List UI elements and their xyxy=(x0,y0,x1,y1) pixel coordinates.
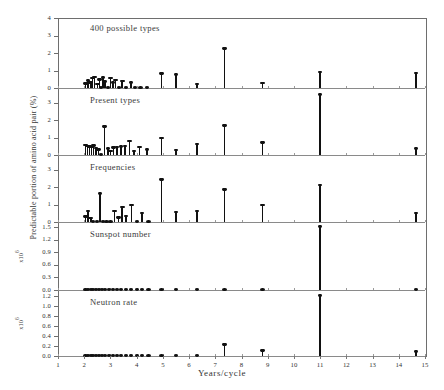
data-point-head xyxy=(222,124,227,127)
y-tick-label-2-2: 2 xyxy=(22,184,51,191)
y-tick-label-0-0: 0 xyxy=(22,85,51,92)
x-tick-inner-2-13 xyxy=(373,220,374,223)
panel-present-types-title: Present types xyxy=(90,95,140,105)
data-stem xyxy=(110,152,112,156)
y-tick-label-4-1: 0.2 xyxy=(22,343,51,350)
data-point-head xyxy=(159,72,164,75)
data-point-dot xyxy=(99,153,103,156)
x-tick-14 xyxy=(399,356,400,359)
x-tick-inner-2-15 xyxy=(425,220,426,223)
data-point-dot xyxy=(146,354,150,357)
data-point-head xyxy=(140,212,145,215)
data-point-dot xyxy=(140,354,144,357)
x-tick-inner-0-6 xyxy=(189,86,190,89)
data-point-dot xyxy=(140,288,144,291)
data-point-head xyxy=(222,47,227,50)
x-tick-inner-3-8 xyxy=(242,288,243,291)
y-tick-2-3 xyxy=(54,170,58,171)
data-point-dot xyxy=(119,354,123,357)
x-tick-inner-3-7 xyxy=(215,288,216,291)
data-stem xyxy=(124,146,126,155)
data-point-dot xyxy=(145,86,149,89)
x-tick-inner-3-15 xyxy=(425,288,426,291)
data-point-dot xyxy=(117,86,121,89)
x-tick-inner-0-10 xyxy=(294,86,295,89)
data-stem xyxy=(319,185,321,222)
data-stem xyxy=(161,138,163,155)
y-exponent-label-3: x106 xyxy=(14,234,23,280)
data-point-dot xyxy=(138,86,142,89)
x-tick-15 xyxy=(425,356,426,359)
x-tick-inner-1-4 xyxy=(137,153,138,156)
data-point-dot xyxy=(135,220,139,223)
y-tick-label-4-6: 1.2 xyxy=(22,293,51,300)
x-tick-1 xyxy=(58,356,59,359)
y-tick-4-3 xyxy=(54,326,58,327)
data-point-dot xyxy=(414,288,418,291)
data-point-head xyxy=(145,148,150,151)
data-point-head xyxy=(113,79,118,82)
y-tick-0-4 xyxy=(54,18,58,19)
data-stem xyxy=(139,147,141,155)
y-tick-3-1 xyxy=(54,277,58,278)
data-stem xyxy=(161,180,163,222)
data-stem xyxy=(415,213,417,222)
data-stem xyxy=(114,212,116,223)
data-stem xyxy=(196,212,198,223)
x-tick-label-1: 1 xyxy=(47,361,69,368)
data-point-head xyxy=(260,204,265,207)
data-point-head xyxy=(260,82,265,85)
data-point-head xyxy=(102,125,107,128)
x-tick-13 xyxy=(373,356,374,359)
x-tick-9 xyxy=(268,356,269,359)
data-point-head xyxy=(137,146,142,149)
y-tick-3-5 xyxy=(54,227,58,228)
x-tick-inner-1-5 xyxy=(163,153,164,156)
x-tick-11 xyxy=(320,356,321,359)
data-point-dot xyxy=(133,86,137,89)
x-tick-inner-3-10 xyxy=(294,288,295,291)
y-tick-label-3-2: 0.6 xyxy=(22,261,51,268)
y-tick-label-4-2: 0.4 xyxy=(22,333,51,340)
y-tick-label-0-4: 4 xyxy=(22,15,51,22)
x-tick-label-2: 2 xyxy=(73,361,95,368)
x-tick-inner-3-1 xyxy=(58,288,59,291)
data-point-dot xyxy=(124,354,128,357)
x-tick-inner-3-6 xyxy=(189,288,190,291)
data-stem xyxy=(224,49,226,88)
data-point-head xyxy=(174,149,179,152)
y-tick-label-1-0: 0 xyxy=(22,152,51,159)
x-tick-inner-3-12 xyxy=(346,288,347,291)
x-tick-inner-3-9 xyxy=(268,288,269,291)
x-tick-label-10: 10 xyxy=(283,361,305,368)
y-tick-0-2 xyxy=(54,53,58,54)
x-tick-8 xyxy=(242,356,243,359)
x-tick-inner-3-14 xyxy=(399,288,400,291)
x-tick-inner-2-7 xyxy=(215,220,216,223)
y-tick-0-3 xyxy=(54,36,58,37)
y-tick-4-5 xyxy=(54,306,58,307)
data-stem xyxy=(415,73,417,88)
x-tick-label-6: 6 xyxy=(178,361,200,368)
x-tick-label-5: 5 xyxy=(152,361,174,368)
x-tick-inner-1-7 xyxy=(215,153,216,156)
x-tick-inner-3-13 xyxy=(373,288,374,291)
data-point-dot xyxy=(174,354,178,357)
y-tick-2-1 xyxy=(54,205,58,206)
y-tick-label-0-2: 2 xyxy=(22,50,51,57)
panel-baseline-0 xyxy=(58,88,425,89)
data-point-head xyxy=(120,80,125,83)
x-tick-label-12: 12 xyxy=(335,361,357,368)
y-tick-label-0-3: 3 xyxy=(22,32,51,39)
x-tick-inner-1-12 xyxy=(346,153,347,156)
x-tick-inner-2-5 xyxy=(163,220,164,223)
y-tick-0-0 xyxy=(54,88,58,89)
y-tick-label-1-1: 1 xyxy=(22,134,51,141)
data-stem xyxy=(224,126,226,155)
panel-frequencies-title: Frequencies xyxy=(90,162,135,172)
y-exponent-label-4: x106 xyxy=(14,301,23,347)
data-point-dot xyxy=(108,220,112,223)
x-tick-label-4: 4 xyxy=(126,361,148,368)
y-tick-label-1-3: 3 xyxy=(22,99,51,106)
data-point-head xyxy=(123,145,128,148)
